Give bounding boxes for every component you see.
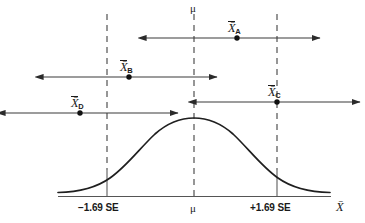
interval-c-mean-dot xyxy=(274,99,279,104)
interval-d-mean-dot xyxy=(77,110,82,115)
interval-b xyxy=(43,74,217,79)
interval-c xyxy=(196,99,360,104)
interval-b-mean-dot xyxy=(126,74,131,79)
figure-canvas xyxy=(0,0,365,223)
interval-a xyxy=(146,35,320,40)
interval-d xyxy=(5,110,178,115)
interval-a-mean-dot xyxy=(234,35,239,40)
reference-lines xyxy=(107,14,277,196)
sampling-distribution-figure: μ X̄A X̄B X̄C X̄D −1.69 SE μ +1.69 SE X̄ xyxy=(0,0,365,223)
axis-ticks xyxy=(107,170,277,196)
